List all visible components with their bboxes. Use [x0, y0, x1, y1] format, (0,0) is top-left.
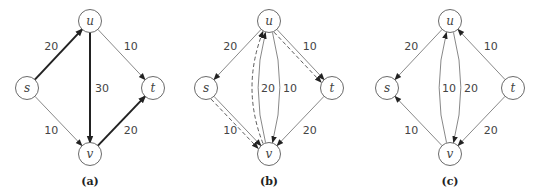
node-label: s [24, 81, 30, 95]
edges: 2030201010 [35, 29, 145, 145]
node-u: u [79, 10, 102, 33]
edge-u-t [98, 29, 145, 79]
node-s: s [195, 77, 218, 100]
node-u: u [439, 10, 462, 33]
edge-label-v-u: 10 [442, 82, 456, 95]
edge-s-u [35, 29, 82, 79]
edge-label-v-s: 10 [404, 124, 418, 137]
edge-label-u-v: 20 [464, 82, 478, 95]
node-v: v [79, 143, 102, 166]
node-label: u [446, 14, 454, 28]
edge-label-t-v: 20 [484, 124, 498, 137]
node-label: u [265, 14, 273, 28]
edge-v-t [98, 96, 145, 145]
panel-b: 201010202010sutv(b) [195, 10, 344, 189]
edge-u-s [214, 29, 261, 79]
panel-caption: (a) [81, 175, 99, 188]
node-label: v [266, 147, 273, 161]
edge-label-u-v: 10 [283, 82, 297, 95]
edge-t-u [458, 29, 505, 79]
edge-label-s-v: 10 [223, 124, 237, 137]
edge-label-s-u: 20 [44, 40, 58, 53]
edge-u-s [395, 29, 442, 79]
edge-label-t-u: 10 [484, 40, 498, 53]
node-label: t [330, 81, 335, 95]
edge-label-u-t: 10 [303, 40, 317, 53]
edge-t-v [458, 96, 505, 145]
node-t: t [321, 77, 344, 100]
edge-s-v [214, 96, 261, 145]
edge-v-s [395, 96, 442, 145]
node-label: v [447, 147, 454, 161]
edge-label-u-s: 20 [223, 40, 237, 53]
node-s: s [376, 77, 399, 100]
node-label: t [151, 81, 156, 95]
node-t: t [502, 77, 525, 100]
node-v: v [439, 143, 462, 166]
edge-label-u-t: 10 [124, 40, 138, 53]
node-label: v [87, 147, 94, 161]
node-v: v [258, 143, 281, 166]
edge-label-v-u: 20 [261, 82, 275, 95]
node-u: u [258, 10, 281, 33]
edge-label-u-s: 20 [404, 40, 418, 53]
panel-c: 201010201020sutv(c) [376, 10, 525, 189]
edges: 201010202010 [211, 29, 324, 148]
node-label: s [203, 81, 209, 95]
edge-label-s-v: 10 [44, 124, 58, 137]
edges: 201010201020 [395, 29, 505, 145]
node-label: u [86, 14, 94, 28]
edge-t-v [277, 96, 324, 145]
edge-label-u-v: 30 [95, 82, 109, 95]
node-t: t [142, 77, 165, 100]
panel-a: 2030201010sutv(a) [16, 10, 165, 189]
edge-label-v-t: 20 [124, 124, 138, 137]
node-s: s [16, 77, 39, 100]
edge-s-v [35, 96, 82, 145]
panel-caption: (c) [441, 175, 458, 188]
flow-network-figure: 2030201010sutv(a)201010202010sutv(b)2010… [0, 0, 542, 196]
edge-s-v-augmenting [211, 99, 258, 148]
node-label: s [384, 81, 390, 95]
edge-u-t [277, 29, 324, 79]
edge-label-t-v: 20 [303, 124, 317, 137]
node-label: t [511, 81, 516, 95]
panel-caption: (b) [260, 175, 278, 188]
